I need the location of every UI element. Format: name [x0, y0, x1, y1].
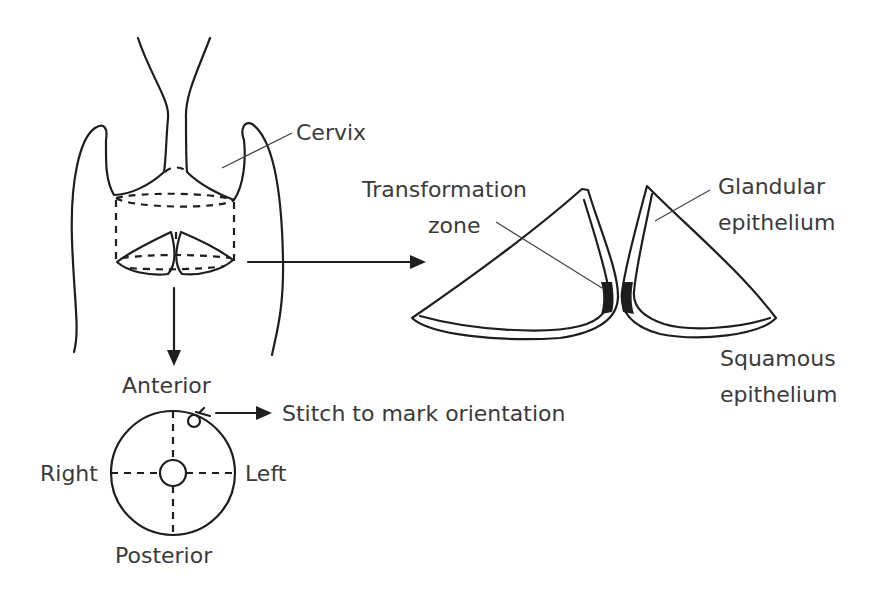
label-cervix: Cervix — [296, 120, 366, 145]
label-glandular-2: epithelium — [718, 210, 835, 235]
arrow-to-orientation — [167, 288, 181, 366]
label-squamous-1: Squamous — [720, 346, 836, 371]
orientation-diagram — [111, 408, 235, 535]
transformation-zone-leader — [496, 222, 602, 288]
label-transformation-1: Transformation — [361, 177, 527, 202]
cervix-leader — [222, 133, 292, 168]
label-posterior: Posterior — [115, 543, 213, 568]
cone-half-left-enlarged — [412, 189, 618, 339]
stitch-arrow — [216, 406, 272, 420]
label-anterior: Anterior — [122, 373, 212, 398]
label-squamous-2: epithelium — [720, 382, 837, 407]
stitch-icon — [188, 408, 210, 427]
cone-halves-small — [117, 232, 233, 275]
label-transformation-2: zone — [428, 213, 481, 238]
label-right: Right — [40, 461, 98, 486]
cone-half-right-enlarged — [622, 186, 777, 337]
cone-biopsy-diagram: Cervix Transformation zone Glandular epi… — [0, 0, 888, 594]
arrow-to-enlarged-cone — [248, 255, 426, 269]
label-left: Left — [245, 461, 287, 486]
label-stitch: Stitch to mark orientation — [282, 401, 565, 426]
label-glandular-1: Glandular — [718, 174, 826, 199]
uterus-cervix-outline — [72, 38, 283, 355]
glandular-leader — [655, 190, 710, 221]
